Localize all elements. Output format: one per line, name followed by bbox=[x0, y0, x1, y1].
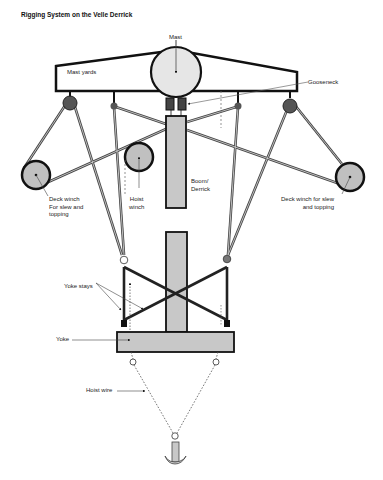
label-hoist-wire: Hoist wire bbox=[86, 387, 112, 395]
label-gooseneck: Gooseneck bbox=[308, 79, 338, 87]
label-left-deck-winch: Deck winch For slew and topping bbox=[49, 196, 83, 219]
hoist-wire bbox=[131, 352, 218, 433]
gooseneck-right bbox=[178, 98, 186, 110]
boom-lower bbox=[166, 232, 187, 332]
label-yoke: Yoke bbox=[56, 336, 69, 344]
right-yard-block bbox=[283, 99, 297, 113]
label-boom: Boom/ Derrick bbox=[191, 178, 210, 193]
label-yoke-stays: Yoke stays bbox=[64, 283, 93, 291]
right-lower-sheave bbox=[223, 255, 231, 263]
right-inner-block bbox=[235, 103, 242, 110]
boom-upper bbox=[166, 116, 186, 208]
label-mast-yards: Mast yards bbox=[67, 69, 96, 77]
yoke bbox=[117, 332, 234, 352]
hook bbox=[165, 442, 186, 464]
label-right-deck-winch: Deck winch for slew and topping bbox=[281, 196, 334, 211]
left-inner-block bbox=[111, 103, 118, 110]
label-hoist-winch: Hoist winch bbox=[129, 196, 144, 211]
label-mast: Mast bbox=[169, 34, 182, 42]
left-lower-sheave bbox=[120, 256, 128, 264]
hook-ring bbox=[172, 433, 178, 439]
gooseneck-left bbox=[166, 98, 174, 110]
rigging-diagram bbox=[0, 0, 383, 480]
left-yard-block bbox=[63, 96, 77, 110]
